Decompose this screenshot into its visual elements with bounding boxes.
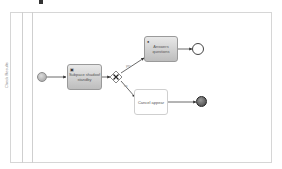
sequence-flows <box>0 0 282 169</box>
flow-label-yes: yes <box>126 64 131 68</box>
exclusive-gateway[interactable] <box>110 71 122 83</box>
bpmn-canvas: Check Results yes no ▣ Subpace shadoof s… <box>0 0 282 169</box>
task-label: Cancel appear <box>138 100 164 105</box>
end-event[interactable] <box>192 43 204 55</box>
terminate-end-event[interactable] <box>196 96 207 107</box>
flow-gateway-to-answers[interactable] <box>121 58 144 73</box>
task-cancel-appear[interactable]: Cancel appear <box>134 89 168 115</box>
task-label: Answers questions <box>145 44 177 54</box>
start-event[interactable] <box>37 72 47 82</box>
task-label: Subpace shadoof standby <box>68 72 101 82</box>
flow-label-no: no <box>124 84 127 88</box>
task-subprocess[interactable]: ▣ Subpace shadoof standby <box>67 64 102 90</box>
user-task-icon: ● <box>147 39 149 44</box>
task-answers-questions[interactable]: ● Answers questions <box>144 36 178 62</box>
subprocess-marker-icon: ▣ <box>70 67 74 72</box>
